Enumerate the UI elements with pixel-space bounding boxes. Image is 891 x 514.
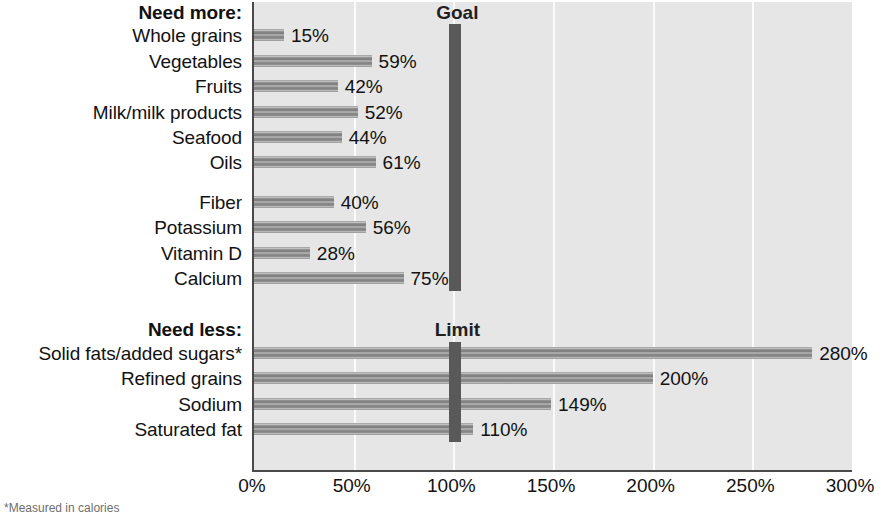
reference-marker-bar [449,342,461,443]
section-heading: Need less: [148,320,242,339]
bar-value-label: 149% [558,395,607,414]
x-axis-tick-label: 250% [726,476,775,495]
category-label: Milk/milk products [93,103,242,122]
category-label: Fruits [195,77,242,96]
data-bar [254,423,473,435]
category-label-column: Need more:Whole grainsVegetablesFruitsMi… [0,0,248,470]
bar-value-label: 59% [379,52,417,71]
bar-value-label: 15% [291,26,329,45]
data-bar [254,272,404,284]
category-label: Potassium [154,218,242,237]
data-bar [254,196,334,208]
gridline [553,2,555,470]
data-bar [254,247,310,259]
category-label: Solid fats/added sugars* [38,344,242,363]
data-bar [254,106,358,118]
gridline [752,2,754,470]
category-label: Oils [210,153,242,172]
x-axis-tick-label: 50% [333,476,371,495]
data-bar [254,156,376,168]
bar-value-label: 200% [660,369,709,388]
bar-value-label: 44% [349,128,387,147]
category-label: Vitamin D [161,244,242,263]
x-axis-tick-label: 200% [626,476,675,495]
reference-marker-bar [449,24,461,291]
category-label: Refined grains [121,369,242,388]
x-axis-tick-label: 0% [238,476,265,495]
category-label: Seafood [172,128,242,147]
category-label: Calcium [174,269,242,288]
data-bar [254,347,812,359]
section-heading: Need more: [138,3,242,22]
reference-marker-label: Limit [435,320,480,339]
bar-value-label: 42% [345,77,383,96]
x-axis-tick-label: 300% [826,476,875,495]
bar-value-label: 110% [480,420,527,439]
data-bar [254,221,366,233]
nutrition-intake-bar-chart: Need more:Whole grainsVegetablesFruitsMi… [0,0,891,514]
data-bar [254,80,338,92]
plot-area: 15%59%42%52%44%61%40%56%28%75%280%200%14… [252,2,852,472]
data-bar [254,55,372,67]
bar-value-label: 52% [365,103,403,122]
category-label: Saturated fat [135,420,243,439]
category-label: Whole grains [132,26,242,45]
x-axis-tick-label: 100% [427,476,476,495]
bar-value-label: 56% [373,218,411,237]
reference-marker-label: Goal [436,3,478,22]
category-label: Fiber [199,193,242,212]
data-bar [254,398,551,410]
data-bar [254,131,342,143]
x-axis-tick-label: 150% [527,476,576,495]
bar-value-label: 75% [411,269,449,288]
data-bar [254,29,284,41]
gridline [653,2,655,470]
category-label: Vegetables [149,52,242,71]
bar-value-label: 28% [317,244,355,263]
category-label: Sodium [178,395,242,414]
bar-value-label: 40% [341,193,379,212]
bar-value-label: 61% [383,153,421,172]
chart-footnote: *Measured in calories [4,502,119,514]
bar-value-label: 280% [819,344,868,363]
